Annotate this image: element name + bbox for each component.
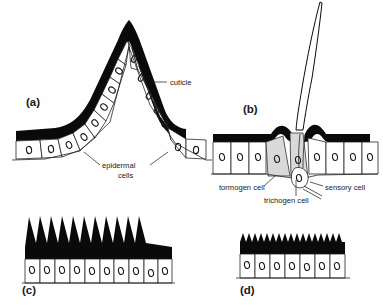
panel-b: (b) tormogen cell sensory cell trichogen… <box>211 2 378 205</box>
panel-b-sensory-cell <box>291 167 308 187</box>
panel-a-epidermal-leader-left <box>84 152 100 165</box>
panel-a-epidermal-leader-right <box>150 152 168 165</box>
panel-c: (c) <box>22 216 175 296</box>
panel-b-label-trichogen: trichogen cell <box>264 196 309 205</box>
panel-a-letter: (a) <box>26 96 40 108</box>
panel-b-bristle-shaft <box>296 2 322 130</box>
panel-b-label-tormogen: tormogen cell <box>219 183 265 192</box>
panel-d: (d) <box>236 233 350 296</box>
panel-b-tormogen-leader <box>264 176 275 186</box>
panel-c-epidermal-cells <box>25 259 172 283</box>
panel-a-label-epidermal-line1: epidermal <box>102 161 136 170</box>
panel-d-letter: (d) <box>240 284 255 296</box>
panel-a-label-epidermal-line2: cells <box>118 171 133 180</box>
figure-container: (a) cuticle epidermal cells <box>0 0 383 306</box>
panel-c-letter: (c) <box>22 284 36 296</box>
panel-d-cuticle-spines <box>240 233 345 254</box>
panel-a-label-cuticle: cuticle <box>170 78 192 87</box>
panel-a: (a) cuticle epidermal cells <box>12 20 212 180</box>
panel-b-letter: (b) <box>243 103 258 115</box>
panel-c-cuticle-spines <box>25 216 172 259</box>
insect-cuticle-diagram: (a) cuticle epidermal cells <box>0 0 383 306</box>
panel-b-label-sensory: sensory cell <box>325 183 365 192</box>
panel-b-sensory-leader <box>310 182 323 186</box>
panel-d-epidermal-cells <box>240 254 345 278</box>
